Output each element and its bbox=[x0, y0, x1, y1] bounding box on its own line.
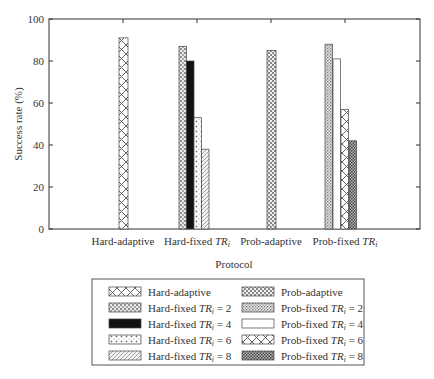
legend-label: Prob-fixed TRi = 4 bbox=[281, 318, 364, 332]
y-tick-label: 80 bbox=[33, 55, 45, 67]
bar bbox=[333, 59, 341, 229]
legend-swatch bbox=[109, 303, 141, 312]
x-category-label: Prob-fixed TRi bbox=[313, 235, 378, 249]
legend-label: Hard-fixed TRi = 8 bbox=[148, 350, 232, 364]
y-tick-label: 100 bbox=[28, 13, 45, 25]
bar bbox=[119, 38, 128, 229]
y-tick-label: 0 bbox=[39, 223, 45, 235]
y-tick-label: 40 bbox=[33, 139, 45, 151]
legend-label: Prob-adaptive bbox=[281, 286, 343, 298]
bar bbox=[187, 61, 195, 229]
legend-label: Hard-fixed TRi = 2 bbox=[148, 302, 231, 316]
legend-swatch bbox=[242, 335, 274, 344]
y-axis: 0 20 40 60 80 100 Success rate (%) bbox=[12, 13, 420, 235]
bar bbox=[341, 109, 349, 229]
legend: Hard-adaptiveHard-fixed TRi = 2Hard-fixe… bbox=[92, 279, 364, 365]
x-axis-title: Protocol bbox=[215, 258, 252, 270]
y-tick-label: 60 bbox=[33, 97, 45, 109]
legend-label: Hard-fixed TRi = 6 bbox=[148, 334, 232, 348]
legend-swatch bbox=[109, 335, 141, 344]
bar bbox=[267, 51, 276, 230]
bar bbox=[349, 141, 357, 229]
legend-swatch bbox=[242, 303, 274, 312]
legend-label: Prob-fixed TRi = 6 bbox=[281, 334, 364, 348]
bars bbox=[119, 38, 357, 229]
legend-swatch bbox=[109, 287, 141, 296]
bar-chart: 0 20 40 60 80 100 Success rate (%) Hard-… bbox=[0, 0, 434, 379]
legend-swatch bbox=[242, 287, 274, 296]
bar bbox=[179, 46, 187, 229]
legend-swatch bbox=[109, 351, 141, 360]
legend-label: Prob-fixed TRi = 2 bbox=[281, 302, 363, 316]
legend-swatch bbox=[242, 351, 274, 360]
x-category-label: Prob-adaptive bbox=[240, 235, 302, 247]
x-category-label: Hard-adaptive bbox=[92, 235, 155, 247]
x-category-label: Hard-fixed TRi bbox=[164, 235, 230, 249]
y-tick-label: 20 bbox=[33, 181, 45, 193]
bar bbox=[202, 149, 210, 229]
legend-swatch bbox=[242, 319, 274, 328]
bar bbox=[325, 44, 333, 229]
y-axis-title: Success rate (%) bbox=[12, 87, 25, 161]
bar bbox=[194, 118, 202, 229]
legend-label: Hard-adaptive bbox=[148, 286, 211, 298]
legend-label: Prob-fixed TRi = 8 bbox=[281, 350, 364, 364]
legend-label: Hard-fixed TRi = 4 bbox=[148, 318, 232, 332]
plot-area bbox=[49, 19, 420, 229]
legend-swatch bbox=[109, 319, 141, 328]
